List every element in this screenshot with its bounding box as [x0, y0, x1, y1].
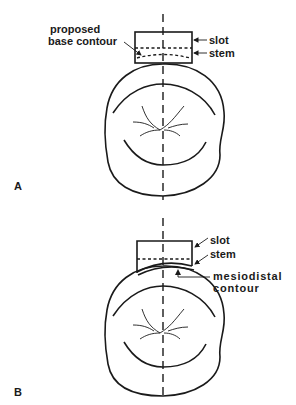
- buccal-ridge-a: [113, 84, 215, 115]
- bracket-b: [137, 241, 194, 275]
- proposed-label: proposed: [50, 23, 100, 35]
- stem-leader-b: [195, 255, 208, 264]
- panel-label-b: B: [14, 386, 22, 398]
- lingual-ridge-b: [124, 342, 206, 367]
- slot-leader-b: [195, 238, 208, 247]
- slot-label-a: slot: [209, 34, 229, 46]
- tooth-a: [105, 64, 224, 196]
- bracket-diagram: proposed base contour slot stem A slot s: [0, 0, 296, 405]
- contour-label: contour: [213, 282, 260, 294]
- slot-label-b: slot: [210, 234, 230, 246]
- proposed-base-contour-leader: [124, 42, 141, 55]
- mesiodistal-label: mesiodistal: [213, 270, 282, 282]
- panel-b: slot stem mesiodistal contour B: [14, 218, 282, 398]
- stem-label-a: stem: [209, 47, 235, 59]
- base-contour-label: base contour: [48, 35, 118, 47]
- panel-a: proposed base contour slot stem A: [14, 14, 235, 200]
- buccal-ridge-b: [113, 286, 215, 317]
- stem-label-b: stem: [210, 248, 236, 260]
- occlusal-fissures-a: [133, 106, 188, 136]
- panel-label-a: A: [14, 180, 22, 192]
- lingual-ridge-a: [124, 140, 206, 165]
- mesiodistal-leader: [178, 272, 210, 277]
- occlusal-fissures-b: [133, 309, 188, 339]
- mesiodistal-arrowhead-icon: [175, 269, 181, 275]
- tooth-b: [105, 266, 224, 396]
